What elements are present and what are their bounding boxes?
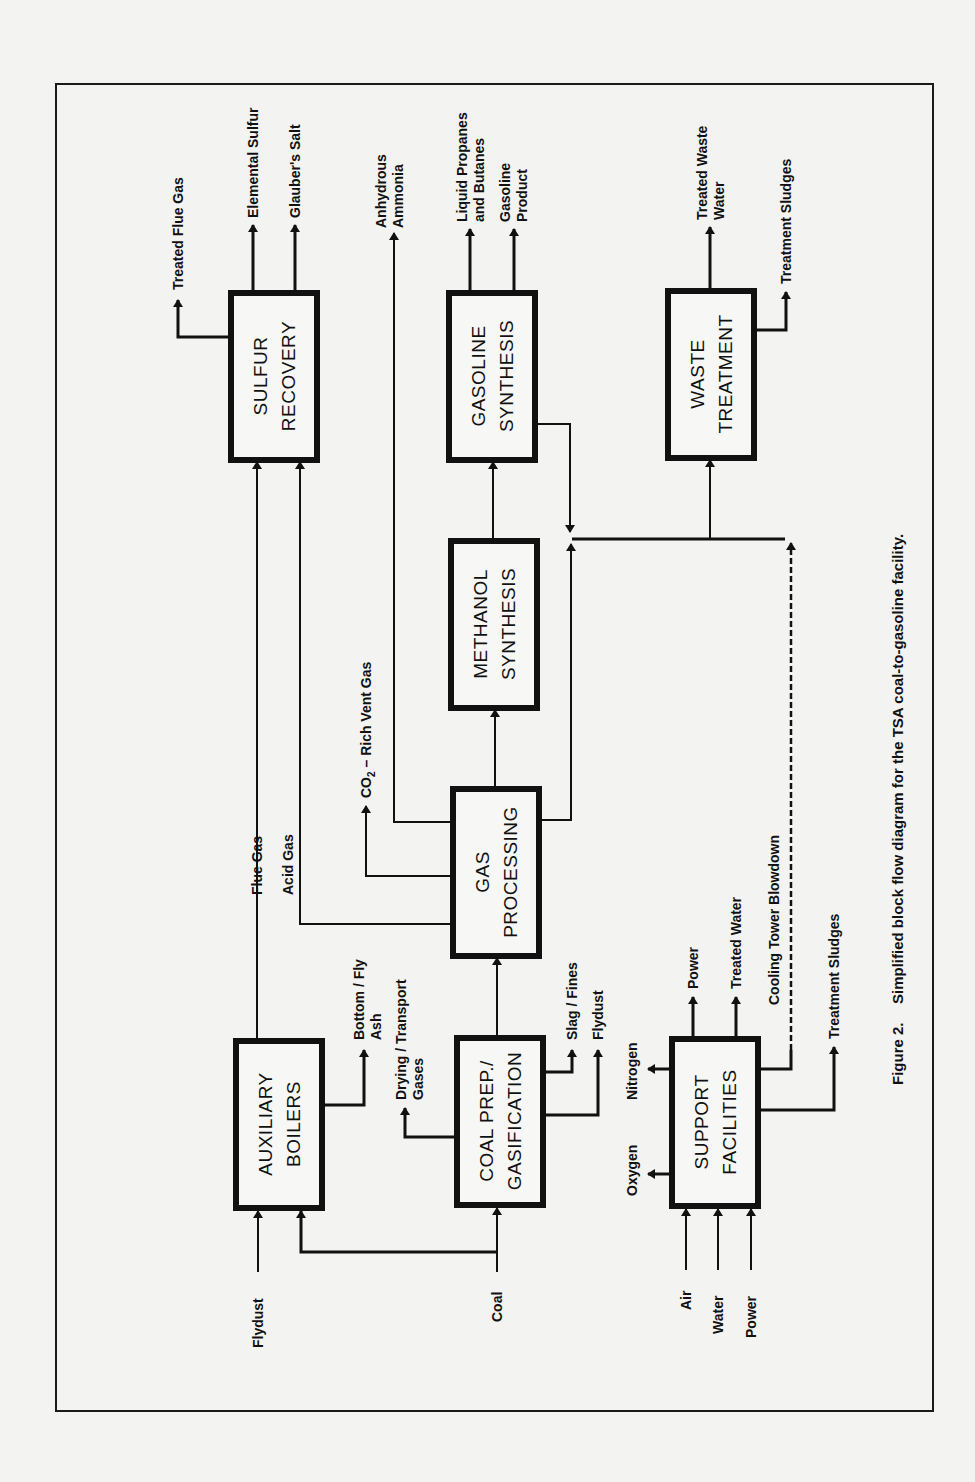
svg-text:Ash: Ash: [368, 1014, 384, 1040]
svg-text:Treatment Sludges: Treatment Sludges: [778, 159, 794, 284]
svg-text:Flydust: Flydust: [250, 1298, 266, 1348]
svg-text:Water: Water: [710, 1295, 726, 1334]
block-label: AUXILIARY: [255, 1072, 276, 1175]
svg-text:CO2 – Rich Vent Gas: CO2 – Rich Vent Gas: [358, 662, 377, 798]
stream-cooling-tower-blowdown: Cooling Tower Blowdown: [758, 543, 791, 1069]
svg-text:Flue Gas: Flue Gas: [249, 836, 265, 895]
svg-text:Treatment Sludges: Treatment Sludges: [826, 914, 842, 1039]
flow-gasproc-to-waste-junction: [539, 544, 571, 820]
svg-text:Ammonia: Ammonia: [390, 164, 406, 228]
stream-slag-fines: Slag / Fines: [543, 962, 580, 1072]
svg-text:Cooling Tower Blowdown: Cooling Tower Blowdown: [766, 835, 782, 1005]
svg-text:Power: Power: [743, 1295, 759, 1338]
block-label: BOILERS: [283, 1081, 304, 1167]
block-label: SYNTHESIS: [496, 320, 517, 432]
block-gasoline-synthesis: GASOLINE SYNTHESIS: [449, 293, 535, 460]
scanned-page: SULFUR RECOVERY GASOLINE SYNTHESIS WASTE…: [0, 0, 975, 1482]
block-label: TREATMENT: [715, 314, 736, 433]
block-gas-processing: GAS PROCESSING: [453, 789, 539, 956]
svg-text:Water: Water: [711, 181, 727, 220]
figure-caption: Figure 2. Simplified block flow diagram …: [889, 534, 906, 1085]
svg-text:Drying / Transport: Drying / Transport: [393, 979, 409, 1100]
block-label: FACILITIES: [719, 1069, 740, 1174]
stream-drying-transport-gases: Drying / Transport Gases: [393, 979, 457, 1137]
block-waste-treatment: WASTE TREATMENT: [668, 291, 754, 458]
block-sulfur-recovery: SULFUR RECOVERY: [231, 293, 317, 460]
stream-flue-gas: Flue Gas: [249, 462, 265, 1041]
svg-text:Gases: Gases: [410, 1058, 426, 1100]
stream-elemental-sulfur: Elemental Sulfur: [245, 107, 261, 293]
block-auxiliary-boilers: AUXILIARY BOILERS: [236, 1041, 322, 1208]
svg-text:Oxygen: Oxygen: [624, 1145, 640, 1196]
svg-text:Bottom / Fly: Bottom / Fly: [351, 959, 367, 1040]
stream-power-in: Power: [743, 1209, 759, 1338]
svg-text:Nitrogen: Nitrogen: [624, 1042, 640, 1100]
stream-power-out: Power: [685, 946, 701, 1039]
stream-co2-rich-vent-gas: CO2 – Rich Vent Gas: [358, 662, 453, 876]
svg-text:Liquid Propanes: Liquid Propanes: [454, 112, 470, 222]
stream-treated-flue-gas: Treated Flue Gas: [170, 177, 231, 337]
svg-text:Treated Water: Treated Water: [728, 896, 744, 989]
svg-text:Acid Gas: Acid Gas: [280, 834, 296, 895]
block-flow-diagram: SULFUR RECOVERY GASOLINE SYNTHESIS WASTE…: [0, 0, 975, 1482]
svg-text:Slag / Fines: Slag / Fines: [564, 962, 580, 1040]
svg-text:Air: Air: [678, 1290, 694, 1310]
svg-text:Power: Power: [685, 946, 701, 989]
svg-text:Elemental Sulfur: Elemental Sulfur: [245, 107, 261, 218]
stream-nitrogen: Nitrogen: [624, 1042, 672, 1100]
block-label: PROCESSING: [500, 806, 521, 938]
block-label: GAS: [472, 851, 493, 893]
stream-liquid-propanes-butanes: Liquid Propanes and Butanes: [454, 112, 487, 293]
block-label: SYNTHESIS: [498, 568, 519, 680]
block-label: COAL PREP./: [476, 1060, 497, 1182]
block-coal-prep-gasification: COAL PREP./ GASIFICATION: [457, 1038, 543, 1205]
svg-text:Gasoline: Gasoline: [497, 163, 513, 222]
svg-text:Glauber's Salt: Glauber's Salt: [287, 124, 303, 218]
block-label: GASOLINE: [468, 325, 489, 426]
stream-flydust-in: Flydust: [250, 1211, 266, 1348]
svg-text:Treated Flue Gas: Treated Flue Gas: [170, 177, 186, 290]
block-methanol-synthesis: METHANOL SYNTHESIS: [451, 541, 537, 708]
stream-bottom-fly-ash: Bottom / Fly Ash: [322, 959, 384, 1105]
flow-gasoline-to-waste-junction: [535, 424, 570, 532]
svg-text:Anhydrous: Anhydrous: [373, 154, 389, 228]
block-label: RECOVERY: [278, 321, 299, 431]
block-label: METHANOL: [470, 569, 491, 679]
svg-text:and Butanes: and Butanes: [471, 138, 487, 222]
svg-text:Product: Product: [514, 169, 530, 222]
svg-text:Treated Waste: Treated Waste: [694, 125, 710, 220]
stream-oxygen: Oxygen: [624, 1145, 672, 1196]
block-label: WASTE: [687, 339, 708, 408]
block-label: SULFUR: [250, 336, 271, 415]
stream-gasoline-product: Gasoline Product: [497, 163, 530, 293]
stream-treated-water: Treated Water: [728, 896, 744, 1039]
block-support-facilities: SUPPORT FACILITIES: [672, 1039, 758, 1206]
block-label: SUPPORT: [691, 1074, 712, 1169]
svg-text:Figure 2.: Figure 2.: [889, 1022, 906, 1085]
stream-anhydrous-ammonia: Anhydrous Ammonia: [373, 154, 453, 822]
stream-air: Air: [678, 1209, 694, 1310]
stream-coal: Coal: [301, 1208, 505, 1322]
svg-text:Coal: Coal: [489, 1292, 505, 1322]
stream-water: Water: [710, 1209, 726, 1334]
svg-text:Flydust: Flydust: [590, 990, 606, 1040]
stream-treated-waste-water: Treated Waste Water: [694, 125, 727, 291]
block-label: GASIFICATION: [504, 1052, 525, 1191]
stream-glaubers-salt: Glauber's Salt: [287, 124, 303, 293]
svg-text:Simplified block flow diagram: Simplified block flow diagram for the TS…: [889, 534, 906, 1004]
stream-treatment-sludges-top: Treatment Sludges: [754, 159, 794, 330]
